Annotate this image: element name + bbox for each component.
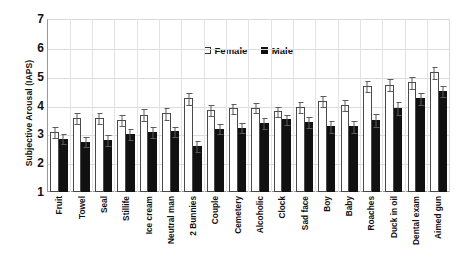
y-tick-7: 7 xyxy=(16,13,44,25)
error-bar xyxy=(434,67,435,80)
bar-male xyxy=(282,119,291,192)
x-tick-cell: Cemetery xyxy=(227,194,249,276)
x-tick-cell: Couple xyxy=(204,194,226,276)
x-tick-cell: Dental exam xyxy=(405,194,427,276)
bar-group xyxy=(48,19,70,192)
bar-female xyxy=(229,108,238,192)
x-tick-cell: Seal xyxy=(93,194,115,276)
bar-female xyxy=(341,105,350,192)
error-bar xyxy=(241,123,242,135)
bar-group xyxy=(71,19,93,192)
x-tick-label: Stillife xyxy=(121,196,131,221)
error-bar xyxy=(375,114,376,128)
x-axis-tick-labels: FruitTowelSealStillifeIce creamNeutral m… xyxy=(48,194,449,276)
bar-group xyxy=(361,19,383,192)
error-bar xyxy=(264,118,265,130)
error-bar xyxy=(442,86,443,99)
bar-male xyxy=(327,126,336,192)
bar-group xyxy=(160,19,182,192)
bar-group xyxy=(93,19,115,192)
error-bar xyxy=(121,115,122,128)
x-tick-cell: Stillife xyxy=(115,194,137,276)
bar-group xyxy=(428,19,449,192)
bar-male xyxy=(193,146,202,192)
bar-group xyxy=(406,19,428,192)
x-tick-cell: Ice cream xyxy=(137,194,159,276)
error-bar xyxy=(398,102,399,116)
bar-male xyxy=(349,126,358,192)
error-bar xyxy=(152,127,153,139)
bar-male xyxy=(81,142,90,192)
y-tick-1: 1 xyxy=(16,186,44,198)
bar-group xyxy=(205,19,227,192)
x-tick-label: Aimed gun xyxy=(433,196,443,239)
bar-group xyxy=(138,19,160,192)
bar-chart: Subjective Arousal (IAPS) 7654321 Female… xyxy=(0,0,458,277)
bar-male xyxy=(148,132,157,192)
y-axis-tick-labels: 7654321 xyxy=(12,19,44,192)
x-tick-label: Sad face xyxy=(300,196,310,230)
x-tick-cell: Fruit xyxy=(48,194,70,276)
error-bar xyxy=(99,113,100,126)
error-bar xyxy=(331,121,332,134)
error-bar xyxy=(188,93,189,106)
error-bar xyxy=(389,79,390,92)
error-bar xyxy=(277,107,278,119)
x-tick-label: 2 Bunnies xyxy=(188,196,198,236)
bar-female xyxy=(430,72,439,192)
bar-female xyxy=(162,113,171,192)
bar-group xyxy=(294,19,316,192)
bar-female xyxy=(274,111,283,192)
bar-male xyxy=(104,140,113,192)
error-bar xyxy=(300,102,301,114)
y-tick-4: 4 xyxy=(16,100,44,112)
x-tick-cell: Baby xyxy=(338,194,360,276)
error-bar xyxy=(54,127,55,140)
bar-female xyxy=(251,108,260,192)
error-bar xyxy=(85,137,86,149)
x-tick-label: Duck in oil xyxy=(389,196,399,238)
bar-female xyxy=(207,110,216,192)
x-tick-label: Ice cream xyxy=(144,196,154,234)
bar-male xyxy=(238,128,247,192)
x-tick-cell: Clock xyxy=(271,194,293,276)
x-tick-cell: Towel xyxy=(71,194,93,276)
bar-female xyxy=(408,82,417,192)
bar-group xyxy=(272,19,294,192)
bar-male xyxy=(394,108,403,192)
x-tick-label: Towel xyxy=(77,196,87,219)
error-bar xyxy=(174,127,175,139)
bar-group xyxy=(227,19,249,192)
x-tick-label: Couple xyxy=(210,196,220,224)
error-bar xyxy=(107,135,108,147)
x-tick-cell: Boy xyxy=(316,194,338,276)
error-bar xyxy=(286,115,287,127)
error-bar xyxy=(367,81,368,94)
x-tick-label: Boy xyxy=(322,196,332,212)
bar-male xyxy=(126,134,135,192)
x-tick-cell: 2 Bunnies xyxy=(182,194,204,276)
bar-male xyxy=(260,123,269,192)
bar-female xyxy=(184,98,193,192)
y-tick-5: 5 xyxy=(16,71,44,83)
bar-male xyxy=(305,122,314,192)
bar-female xyxy=(95,118,104,192)
error-bar xyxy=(63,134,64,146)
bar-female xyxy=(363,86,372,192)
bar-male xyxy=(59,139,68,192)
x-tick-label: Roaches xyxy=(366,196,376,231)
x-tick-label: Seal xyxy=(99,196,109,213)
error-bar xyxy=(344,100,345,112)
x-tick-cell: Duck in oil xyxy=(383,194,405,276)
x-tick-cell: Aimed gun xyxy=(427,194,449,276)
error-bar xyxy=(130,129,131,141)
x-tick-label: Baby xyxy=(344,196,354,216)
x-tick-cell: Neutral man xyxy=(160,194,182,276)
x-tick-label: Alcoholic xyxy=(255,196,265,233)
bar-female xyxy=(385,85,394,192)
bar-groups xyxy=(48,19,449,192)
bar-male xyxy=(215,129,224,192)
bar-male xyxy=(171,131,180,192)
bar-female xyxy=(140,115,149,192)
error-bar xyxy=(210,105,211,117)
